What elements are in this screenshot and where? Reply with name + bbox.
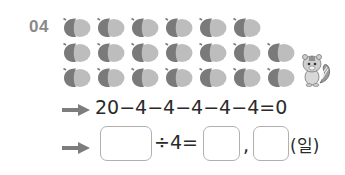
comma-text: , xyxy=(243,134,249,156)
arrow-right-icon xyxy=(62,139,90,158)
acorn-icon xyxy=(199,17,227,38)
acorn-row xyxy=(63,67,295,88)
acorn-icon xyxy=(165,42,193,63)
acorn-row xyxy=(63,17,261,38)
acorn-icon xyxy=(131,42,159,63)
acorn-icon xyxy=(63,67,91,88)
acorn-icon xyxy=(165,67,193,88)
divide-text: ÷4= xyxy=(154,131,198,153)
acorn-icon xyxy=(63,42,91,63)
acorn-icon xyxy=(199,67,227,88)
expression-text: 20−4−4−4−4−4=0 xyxy=(95,96,287,118)
problem-number: 04 xyxy=(29,17,49,37)
subtraction-expression: 20−4−4−4−4−4=0 xyxy=(95,94,287,120)
acorn-icon xyxy=(165,17,193,38)
acorn-icon xyxy=(131,67,159,88)
unit-label: (일) xyxy=(290,132,319,157)
dividend-answer-box[interactable] xyxy=(100,126,152,161)
acorn-icon xyxy=(267,42,295,63)
acorn-row xyxy=(63,42,295,63)
acorn-icon xyxy=(97,67,125,88)
quotient-answer-box[interactable] xyxy=(203,126,240,161)
acorn-icon xyxy=(199,42,227,63)
acorn-icon xyxy=(267,67,295,88)
chipmunk-icon xyxy=(300,53,332,91)
acorn-icon xyxy=(233,42,261,63)
acorn-icon xyxy=(233,67,261,88)
acorn-icon xyxy=(97,42,125,63)
acorn-icon xyxy=(131,17,159,38)
arrow-right-icon xyxy=(62,101,90,120)
acorn-icon xyxy=(233,17,261,38)
acorn-icon xyxy=(63,17,91,38)
remainder-answer-box[interactable] xyxy=(253,126,289,161)
acorn-icon xyxy=(97,17,125,38)
